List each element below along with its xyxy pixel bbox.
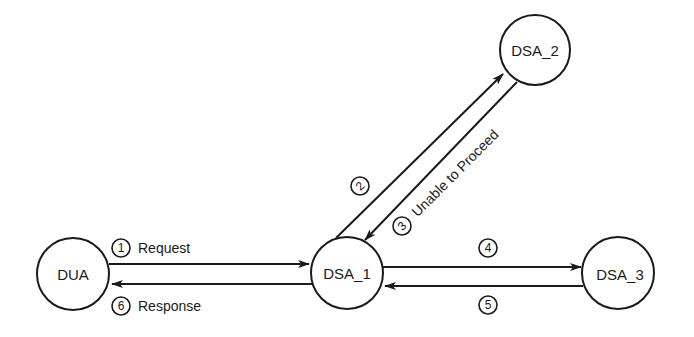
node-dsa3-label: DSA_3	[596, 266, 644, 283]
node-dua-label: DUA	[57, 266, 89, 283]
step-3-marker: 3	[393, 217, 411, 235]
node-dsa2: DSA_2	[500, 15, 570, 85]
step-1-number: 1	[118, 241, 125, 255]
node-dsa2-label: DSA_2	[511, 42, 559, 59]
step-5-marker: 5	[479, 296, 497, 314]
step-4-marker: 4	[479, 239, 497, 257]
step-6-number: 6	[118, 299, 125, 313]
edge-unable-to-proceed	[365, 82, 517, 240]
response-label: Response	[138, 298, 201, 314]
request-label: Request	[138, 240, 190, 256]
diagram-canvas: DUA DSA_1 DSA_2 DSA_3 1 Request 6 Respon…	[0, 0, 694, 337]
step-6-marker: 6	[112, 297, 130, 315]
step-4-number: 4	[485, 241, 492, 255]
step-5-number: 5	[485, 298, 492, 312]
unable-to-proceed-label: Unable to Proceed	[408, 126, 501, 219]
node-dua: DUA	[37, 238, 109, 310]
node-dsa1-label: DSA_1	[323, 265, 371, 282]
step-1-marker: 1	[112, 239, 130, 257]
node-dsa3: DSA_3	[582, 237, 654, 309]
step-2-marker: 2	[351, 177, 369, 195]
node-dsa1: DSA_1	[311, 237, 383, 309]
